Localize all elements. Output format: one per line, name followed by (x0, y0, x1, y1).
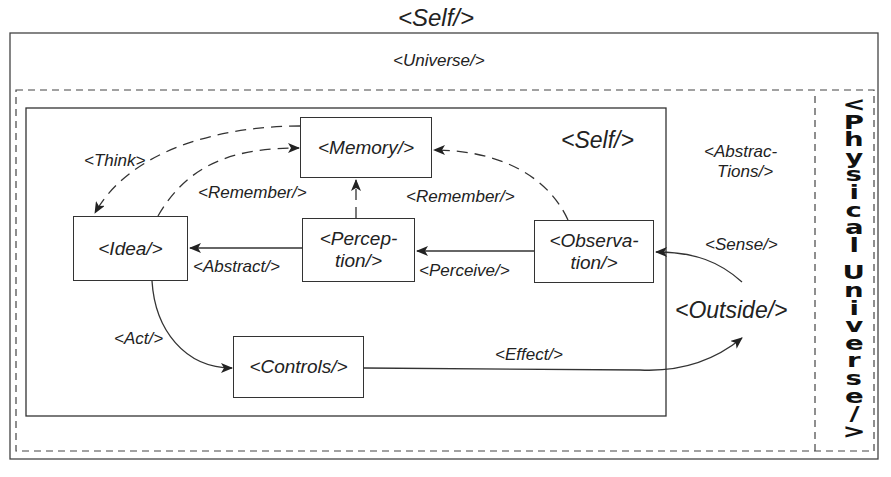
pu-char: l (849, 237, 858, 255)
abstractions-label-line2: Tions/> (717, 163, 773, 180)
node-idea-label: <Idea/> (98, 238, 162, 260)
node-observation-line2: tion/> (570, 252, 617, 274)
outside-label: <Outside/> (675, 299, 788, 322)
universe-label: <Universe/> (393, 52, 485, 69)
node-observation-line1: <Observa- (549, 230, 638, 252)
node-memory: <Memory/> (300, 117, 432, 178)
edge-label-remember-right: <Remember/> (406, 188, 515, 205)
edge-label-think: <Think> (84, 152, 145, 169)
physical-universe-label: < P h y s i c a l U n i v e r s e / > (834, 96, 874, 448)
diagram-title: <Self/> (398, 6, 474, 30)
node-perception-line1: <Percep- (320, 228, 398, 250)
edge-remember-left (158, 148, 299, 216)
node-controls-label: <Controls/> (249, 356, 347, 378)
edge-act (152, 281, 232, 368)
node-idea: <Idea/> (73, 216, 188, 281)
node-observation: <Observa- tion/> (534, 220, 654, 283)
edge-label-remember-left: <Remember/> (198, 184, 307, 201)
node-memory-label: <Memory/> (318, 137, 414, 159)
sense-label: <Sense/> (705, 236, 778, 253)
edge-label-effect: <Effect/> (495, 346, 563, 363)
edge-remember-right (434, 150, 568, 220)
edge-sense (656, 252, 742, 282)
edge-label-abstract: <Abstract/> (193, 258, 280, 275)
pu-char: > (842, 423, 865, 441)
node-controls: <Controls/> (233, 336, 364, 398)
edge-label-perceive: <Perceive/> (419, 262, 510, 279)
self-box-label: <Self/> (561, 129, 634, 152)
abstractions-label-line1: <Abstrac- (704, 143, 777, 160)
node-perception: <Percep- tion/> (302, 218, 415, 282)
node-perception-line2: tion/> (335, 250, 382, 272)
edge-label-act: <Act/> (114, 330, 163, 347)
